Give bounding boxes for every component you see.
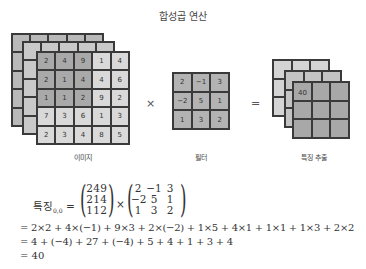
filter-grid: 2 −1 3 −2 5 1 1 3 2	[172, 72, 230, 130]
equation-lhs: 특징0,0 =	[33, 198, 75, 214]
image-layer-front: 2 4 9 1 4 2 1 4 4 6 1 1 2 9 2 7 3 6 1 3 …	[36, 51, 130, 145]
image-cell: 6	[74, 107, 92, 125]
image-cell: 9	[92, 89, 110, 107]
image-cell: 6	[111, 70, 129, 88]
image-cell: 8	[92, 126, 110, 144]
image-cell: 1	[55, 89, 73, 107]
feature-label: 특징 추출	[282, 152, 346, 162]
image-cell: 4	[74, 126, 92, 144]
filter-cell: 3	[192, 110, 211, 129]
image-cell: 1	[55, 70, 73, 88]
lhs-subscript: 0,0	[53, 207, 63, 214]
matrix-b: 2−13 −251 132	[131, 183, 177, 216]
lhs-text: 특징	[33, 200, 53, 212]
equals-operator: =	[251, 97, 260, 110]
diagram-title: 합성곱 연산	[0, 8, 366, 23]
filter-cell: 1	[210, 92, 229, 111]
paren-right-a: )	[108, 181, 114, 218]
image-cell: 1	[37, 89, 55, 107]
image-cell: 3	[55, 126, 73, 144]
filter-cell: 3	[210, 73, 229, 92]
filter-cell: 2	[210, 110, 229, 129]
image-cell: 1	[92, 52, 110, 70]
filter-cell: 5	[192, 92, 211, 111]
image-cell: 2	[37, 70, 55, 88]
multiply-operator: ×	[146, 97, 155, 110]
feature-cell: 40	[293, 82, 312, 101]
image-cell: 7	[37, 107, 55, 125]
image-cell: 1	[92, 107, 110, 125]
image-cell: 4	[74, 70, 92, 88]
equation-line-2: = 2×2 + 4×(−1) + 9×3 + 2×(−2) + 1×5 + 4×…	[20, 222, 354, 233]
filter-cell: −2	[173, 92, 192, 111]
image-cell: 2	[74, 89, 92, 107]
equation-line-3: = 4 + (−4) + 27 + (−4) + 5 + 4 + 1 + 3 +…	[20, 236, 233, 247]
filter-label: 필터	[172, 152, 230, 162]
image-cell: 9	[74, 52, 92, 70]
image-cell: 4	[111, 52, 129, 70]
image-cell: 4	[92, 70, 110, 88]
feature-layer-front: 40	[292, 81, 350, 139]
image-cell: 2	[111, 89, 129, 107]
image-cell: 2	[37, 126, 55, 144]
filter-cell: 2	[173, 73, 192, 92]
image-cell: 3	[111, 107, 129, 125]
image-label: 이미지	[36, 152, 130, 162]
image-cell: 3	[55, 107, 73, 125]
image-cell: 2	[37, 52, 55, 70]
filter-cell: −1	[192, 73, 211, 92]
image-cell: 4	[55, 52, 73, 70]
equation-line-4: = 40	[20, 250, 44, 261]
paren-right-b: )	[180, 181, 186, 218]
equals-sign: =	[66, 200, 75, 212]
filter-cell: 1	[173, 110, 192, 129]
times-sign: ×	[116, 198, 125, 210]
image-cell: 5	[111, 126, 129, 144]
matrix-a: 249 214 112	[86, 183, 107, 216]
